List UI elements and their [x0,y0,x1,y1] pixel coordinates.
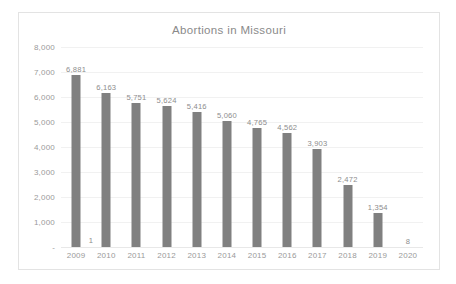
bar-slot[interactable]: 1,354 [363,47,393,247]
bar[interactable] [313,149,322,247]
bar-value-label: 1,354 [368,203,388,212]
y-axis-tick-label: - [52,243,55,252]
y-axis-tick-label: 8,000 [34,43,55,52]
bar-slot[interactable]: 2,472 [333,47,363,247]
bar[interactable] [283,133,292,247]
y-axis-tick-label: 3,000 [34,168,55,177]
bar-value-label: 5,416 [187,102,207,111]
x-axis-tick-label: 2019 [368,251,387,260]
x-axis-tick-label: 2018 [338,251,357,260]
chart-title: Abortions in Missouri [19,24,439,36]
bar-slot[interactable]: 6,881 [61,47,91,247]
x-axis-tick-label: 2009 [67,251,86,260]
bar-slot[interactable]: 8 [393,47,423,247]
bar-slot[interactable]: 4,765 [242,47,272,247]
chart-figure: Abortions in Missouri -1,0002,0003,0004,… [18,12,440,270]
bar-slot[interactable]: 5,751 [121,47,151,247]
x-axis-tick-label: 2011 [127,251,145,260]
bar[interactable] [222,121,231,248]
bar-value-label: 6,881 [66,65,86,74]
bar-slot[interactable]: 5,416 [182,47,212,247]
gridline [61,247,423,248]
x-axis: 2009201020112012201320142015201620172018… [61,251,423,267]
bar-value-label: 6,163 [96,83,116,92]
y-axis-tick-label: 6,000 [34,93,55,102]
bar-slot[interactable]: 6,163 [91,47,121,247]
bar-value-label: 5,751 [126,93,146,102]
y-axis-tick-label: 5,000 [34,118,55,127]
bar-slot[interactable]: 5,624 [152,47,182,247]
x-axis-tick-label: 2013 [187,251,206,260]
bar-slot[interactable]: 5,060 [212,47,242,247]
bar[interactable] [343,185,352,247]
x-axis-tick-label: 2015 [248,251,267,260]
bar-value-label: 5,624 [157,96,177,105]
bar[interactable] [162,106,171,247]
chart-annotation: 1 [89,236,93,245]
y-axis-tick-label: 4,000 [34,143,55,152]
bar[interactable] [373,213,382,247]
x-axis-tick-label: 2017 [308,251,327,260]
bar[interactable] [192,112,201,247]
bar[interactable] [72,75,81,247]
bar-slot[interactable]: 3,903 [302,47,332,247]
bar-value-label: 8 [406,237,410,246]
bar-value-label: 3,903 [307,139,327,148]
x-axis-tick-label: 2016 [278,251,297,260]
bar-value-label: 4,562 [277,123,297,132]
x-axis-tick-label: 2012 [157,251,176,260]
x-axis-tick-label: 2014 [218,251,237,260]
bar-slot[interactable]: 4,562 [272,47,302,247]
x-axis-tick-label: 2020 [399,251,418,260]
bar-value-label: 2,472 [338,175,358,184]
y-axis-tick-label: 7,000 [34,68,55,77]
bar[interactable] [132,103,141,247]
bar[interactable] [102,93,111,247]
bar[interactable] [253,128,262,247]
bar-value-label: 5,060 [217,111,237,120]
plot-area: 6,8816,1635,7515,6245,4165,0604,7654,562… [61,47,423,247]
bar-series: 6,8816,1635,7515,6245,4165,0604,7654,562… [61,47,423,247]
y-axis: -1,0002,0003,0004,0005,0006,0007,0008,00… [19,47,59,247]
bar-value-label: 4,765 [247,118,267,127]
x-axis-tick-label: 2010 [97,251,116,260]
y-axis-tick-label: 2,000 [34,193,55,202]
y-axis-tick-label: 1,000 [34,218,55,227]
